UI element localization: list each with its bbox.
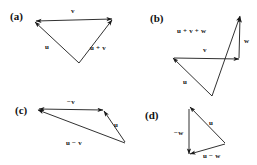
vector-a-u [35,22,79,63]
panel-c-label: (c) [15,105,27,116]
panel-a-vector-label-u-plus-v: u + v [90,45,106,52]
panel-b-label: (b) [150,13,163,24]
vector-c-minus-v [39,109,103,110]
panel-d-vector-label-u: u [209,120,213,127]
vector-a-v [36,19,112,21]
vector-b-u-plus-v-plus-w [212,16,240,96]
panel-b-vector-label-w: w [244,38,249,45]
panel-d-label: (d) [145,110,158,121]
panel-c-vector-label-minus-v: −v [67,99,75,106]
panel-a-label: (a) [10,11,23,22]
vector-b-v [174,58,239,59]
vector-lines-layer [0,0,257,165]
panel-a-vector-label-u: u [45,44,49,51]
panel-d-vector-label-minus-w: −w [174,130,183,137]
panel-b-vector-label-u-plus-v-plus-w: u + v + w [177,28,206,35]
vector-a-u-plus-v [79,20,112,63]
panel-b-vector-label-v: v [203,47,207,54]
panel-b-vector-label-u: u [183,79,187,86]
vector-d-u [190,107,225,143]
panel-c-vector-label-u: u [114,122,118,129]
panel-a-vector-label-v: v [71,8,75,15]
panel-d-vector-label-u-minus-w: u − w [203,153,220,160]
vector-b-w [239,17,240,58]
vector-b-u [173,58,212,96]
vector-diagram-figure: (a) v u u + v (b) u + v + w w v u (c) −v… [0,0,257,165]
panel-c-vector-label-u-minus-v: u − v [66,140,82,147]
